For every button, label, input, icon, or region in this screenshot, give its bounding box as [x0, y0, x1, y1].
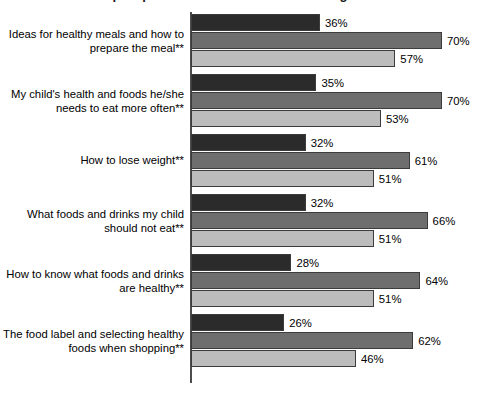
bar [191, 14, 320, 31]
bar-stack: 35%70%53% [191, 74, 484, 128]
bar [191, 170, 374, 187]
bar-group: What foods and drinks my child should no… [0, 194, 484, 248]
bar [191, 110, 381, 127]
bar-value-label: 51% [374, 293, 402, 305]
bar-chart-figure: Topics parents are interested in learnin… [0, 0, 484, 401]
bar-value-label: 66% [428, 215, 456, 227]
bar [191, 152, 410, 169]
bar [191, 50, 395, 67]
bar-stack: 26%62%46% [191, 314, 484, 368]
bar-value-label: 61% [410, 155, 438, 167]
category-label: How to know what foods and drinks are he… [0, 268, 184, 295]
bar-value-label: 51% [374, 173, 402, 185]
bar-group: My child's health and foods he/she needs… [0, 74, 484, 128]
bar-value-label: 70% [442, 35, 470, 47]
bar-value-label: 46% [356, 353, 384, 365]
bar-value-label: 26% [284, 317, 312, 329]
bar-value-label: 32% [306, 137, 334, 149]
bar-stack: 32%61%51% [191, 134, 484, 188]
bar [191, 212, 428, 229]
bar-value-label: 53% [381, 113, 409, 125]
bar-group: The food label and selecting healthy foo… [0, 314, 484, 368]
bar [191, 230, 374, 247]
bar-stack: 32%66%51% [191, 194, 484, 248]
bar-value-label: 70% [442, 95, 470, 107]
bar-value-label: 62% [413, 335, 441, 347]
bar-stack: 36%70%57% [191, 14, 484, 68]
bar [191, 194, 306, 211]
bar-value-label: 35% [316, 77, 344, 89]
bar-group: How to know what foods and drinks are he… [0, 254, 484, 308]
bar-group: Ideas for healthy meals and how to prepa… [0, 14, 484, 68]
bar-value-label: 64% [420, 275, 448, 287]
bar [191, 332, 413, 349]
bar [191, 254, 291, 271]
bar-stack: 28%64%51% [191, 254, 484, 308]
category-label: The food label and selecting healthy foo… [0, 328, 184, 355]
bar-value-label: 28% [291, 257, 319, 269]
plot-area: Ideas for healthy meals and how to prepa… [0, 0, 484, 401]
bar [191, 74, 316, 91]
bar [191, 350, 356, 367]
bar [191, 32, 442, 49]
bar-value-label: 32% [306, 197, 334, 209]
bar [191, 92, 442, 109]
bar-value-label: 51% [374, 233, 402, 245]
bar [191, 314, 284, 331]
bar [191, 290, 374, 307]
category-label: How to lose weight** [0, 154, 184, 168]
bar-group: How to lose weight**32%61%51% [0, 134, 484, 188]
bar-value-label: 57% [395, 53, 423, 65]
category-label: What foods and drinks my child should no… [0, 208, 184, 235]
bar [191, 272, 420, 289]
bar [191, 134, 306, 151]
category-label: Ideas for healthy meals and how to prepa… [0, 28, 184, 55]
category-label: My child's health and foods he/she needs… [0, 88, 184, 115]
bar-value-label: 36% [320, 17, 348, 29]
